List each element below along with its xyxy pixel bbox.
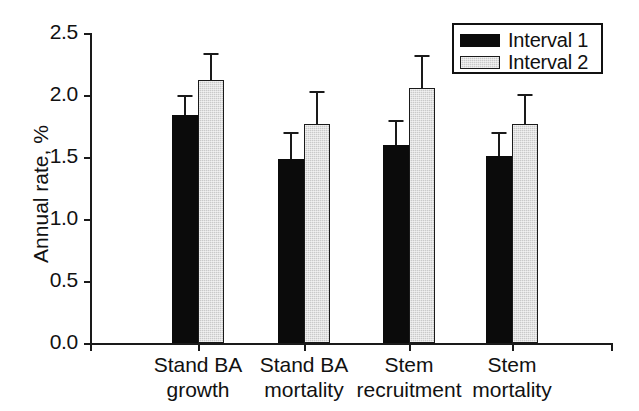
error-bar-cap: [204, 53, 219, 55]
plot-area: [90, 33, 613, 343]
bar-pair: [383, 33, 435, 343]
error-bar-cap: [518, 94, 533, 96]
x-tick-group-4: [512, 345, 514, 351]
error-bar: [421, 55, 423, 87]
x-tick-group-1: [198, 345, 200, 351]
error-bar-cap: [492, 132, 507, 134]
legend-label-interval-2: Interval 2: [508, 51, 588, 74]
y-tick-label-1-5: 1.5: [0, 144, 78, 168]
error-bar: [395, 120, 397, 145]
error-bar: [184, 95, 186, 115]
legend-item-interval-1: Interval 1: [460, 29, 601, 51]
error-bar: [290, 132, 292, 159]
x-tick-label-stem-mortality: Stem mortality: [437, 352, 587, 402]
error-bar-cap: [415, 55, 430, 57]
bar-pair: [278, 33, 330, 343]
bar-interval-1: [278, 159, 304, 343]
bar-interval-1: [172, 115, 198, 343]
legend-label-interval-1: Interval 1: [508, 29, 588, 52]
bar-interval-1: [486, 156, 512, 343]
error-bar: [316, 91, 318, 123]
error-bar-cap: [178, 95, 193, 97]
error-bar: [524, 94, 526, 124]
bar-pair: [172, 33, 224, 343]
black-bar-swatch-icon: [460, 34, 500, 47]
gray-bar-swatch-icon: [460, 56, 500, 69]
bar-interval-2: [304, 124, 330, 343]
error-bar-cap: [284, 132, 299, 134]
error-bar: [210, 53, 212, 80]
legend-box: Interval 1 Interval 2: [452, 23, 603, 74]
x-tick-end: [611, 345, 613, 351]
bar-interval-1: [383, 145, 409, 343]
legend-item-interval-2: Interval 2: [460, 51, 601, 73]
bar-interval-2: [409, 88, 435, 343]
error-bar-cap: [389, 120, 404, 122]
y-tick-label-2-0: 2.0: [0, 82, 78, 106]
bar-interval-2: [512, 124, 538, 343]
bar-chart-figure: Annual rate, % 2.5 2.0 1.5 1.0 0.5 0.0 S…: [0, 0, 639, 411]
x-axis-line: [90, 343, 613, 345]
bar-pair: [486, 33, 538, 343]
y-tick-label-0-0: 0.0: [0, 330, 78, 354]
x-tick-start: [90, 345, 92, 351]
bar-interval-2: [198, 80, 224, 343]
y-tick-label-1-0: 1.0: [0, 206, 78, 230]
x-tick-group-2: [304, 345, 306, 351]
error-bar-cap: [310, 91, 325, 93]
y-tick-label-0-5: 0.5: [0, 268, 78, 292]
x-tick-group-3: [409, 345, 411, 351]
error-bar: [498, 132, 500, 156]
y-tick-label-2-5: 2.5: [0, 20, 78, 44]
